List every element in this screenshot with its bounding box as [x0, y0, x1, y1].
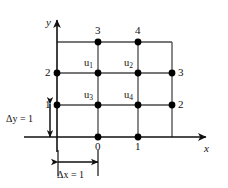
- delta-x-annotation: Δx = 1: [57, 170, 84, 180]
- node-u1: [95, 70, 102, 77]
- x-axis-label: x: [204, 143, 209, 154]
- finite-difference-grid-figure: y x 3 4 2 1 3 2 0 1 u1 u2 u3 u4 Δy = 1 Δ…: [0, 0, 228, 188]
- node-left-2: [54, 70, 61, 77]
- figure-canvas: [0, 0, 228, 188]
- delta-y-annotation: Δy = 1: [6, 114, 33, 124]
- node-top-left: [95, 39, 102, 46]
- unknown-label-u1-subscript: 1: [89, 61, 93, 70]
- unknown-label-u1: u1: [84, 58, 93, 69]
- node-right-3: [169, 70, 176, 77]
- grid-nodes: [54, 39, 176, 141]
- node-right-2: [169, 102, 176, 109]
- axes: [24, 20, 206, 152]
- boundary-label-left-lower: 1: [45, 99, 51, 110]
- boundary-label-top-left: 3: [95, 25, 101, 36]
- node-top-right: [135, 39, 142, 46]
- unknown-label-u2-subscript: 2: [129, 61, 133, 70]
- boundary-label-top-right: 4: [135, 25, 141, 36]
- boundary-label-right-upper: 3: [178, 67, 184, 78]
- node-left-1: [54, 102, 61, 109]
- unknown-label-u4: u4: [124, 90, 133, 101]
- node-u4: [135, 102, 142, 109]
- boundary-label-bottom-right: 1: [135, 141, 141, 152]
- boundary-label-right-lower: 2: [178, 99, 184, 110]
- node-u2: [135, 70, 142, 77]
- grid-lines: [57, 42, 172, 137]
- y-axis-label: y: [46, 17, 51, 28]
- unknown-label-u3-subscript: 3: [89, 93, 93, 102]
- unknown-label-u2: u2: [124, 58, 133, 69]
- unknown-label-u3: u3: [84, 90, 93, 101]
- boundary-label-bottom-left: 0: [95, 141, 101, 152]
- boundary-label-left-upper: 2: [45, 67, 51, 78]
- node-u3: [95, 102, 102, 109]
- unknown-label-u4-subscript: 4: [129, 93, 133, 102]
